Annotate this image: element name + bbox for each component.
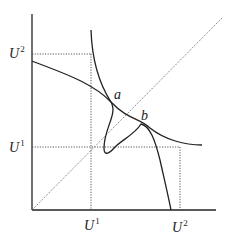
utility-frontier-steep <box>91 30 171 210</box>
diagonal-45-line <box>32 18 222 210</box>
utility-frontier-flat <box>32 61 202 145</box>
label-point-b: b <box>141 109 148 123</box>
label-point-a: a <box>114 88 121 102</box>
label-y-u2: U2 <box>9 45 25 61</box>
diagram-canvas <box>0 0 228 237</box>
label-y-u1: U1 <box>9 139 25 155</box>
label-x-u2: U2 <box>172 219 188 235</box>
label-x-u1: U1 <box>84 217 100 233</box>
diagram: U2 U1 U1 U2 a b <box>0 0 228 237</box>
